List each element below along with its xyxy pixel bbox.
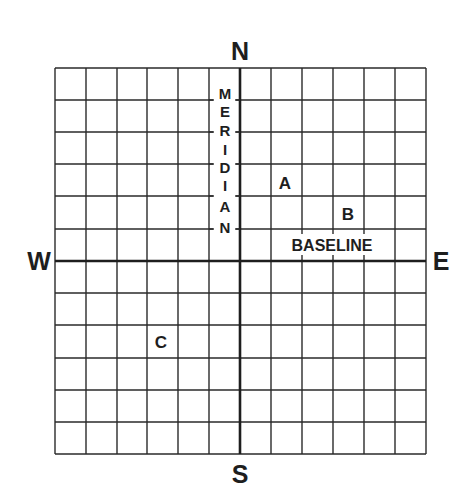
compass-east-label: E — [433, 247, 450, 275]
survey-grid-diagram: M E R I D I A N BASELINE A B C N S W E — [0, 0, 466, 494]
baseline-label: BASELINE — [292, 237, 373, 254]
meridian-letter: I — [223, 141, 227, 158]
meridian-label: M E R I D I A N — [219, 85, 232, 236]
point-label-b: B — [342, 205, 354, 224]
point-label-c: C — [155, 333, 167, 352]
meridian-letter: N — [220, 219, 231, 236]
meridian-letter: E — [220, 103, 230, 120]
background — [0, 0, 466, 494]
meridian-letter: R — [220, 122, 231, 139]
compass-south-label: S — [232, 460, 249, 488]
meridian-letter: D — [220, 159, 231, 176]
meridian-letter: I — [223, 177, 227, 194]
compass-west-label: W — [27, 247, 51, 275]
compass-north-label: N — [231, 37, 249, 65]
point-label-a: A — [279, 174, 291, 193]
meridian-letter: M — [219, 85, 232, 102]
meridian-letter: A — [220, 198, 231, 215]
